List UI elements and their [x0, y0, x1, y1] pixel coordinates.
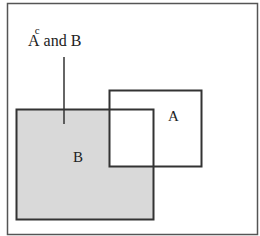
set-a-label: A [168, 108, 179, 124]
region-label-superscript: c [35, 24, 40, 36]
venn-diagram: A c and B A B [0, 0, 260, 236]
set-b-label: B [73, 149, 83, 165]
intersection-region [109, 109, 153, 166]
region-label-rest: and B [44, 32, 82, 49]
